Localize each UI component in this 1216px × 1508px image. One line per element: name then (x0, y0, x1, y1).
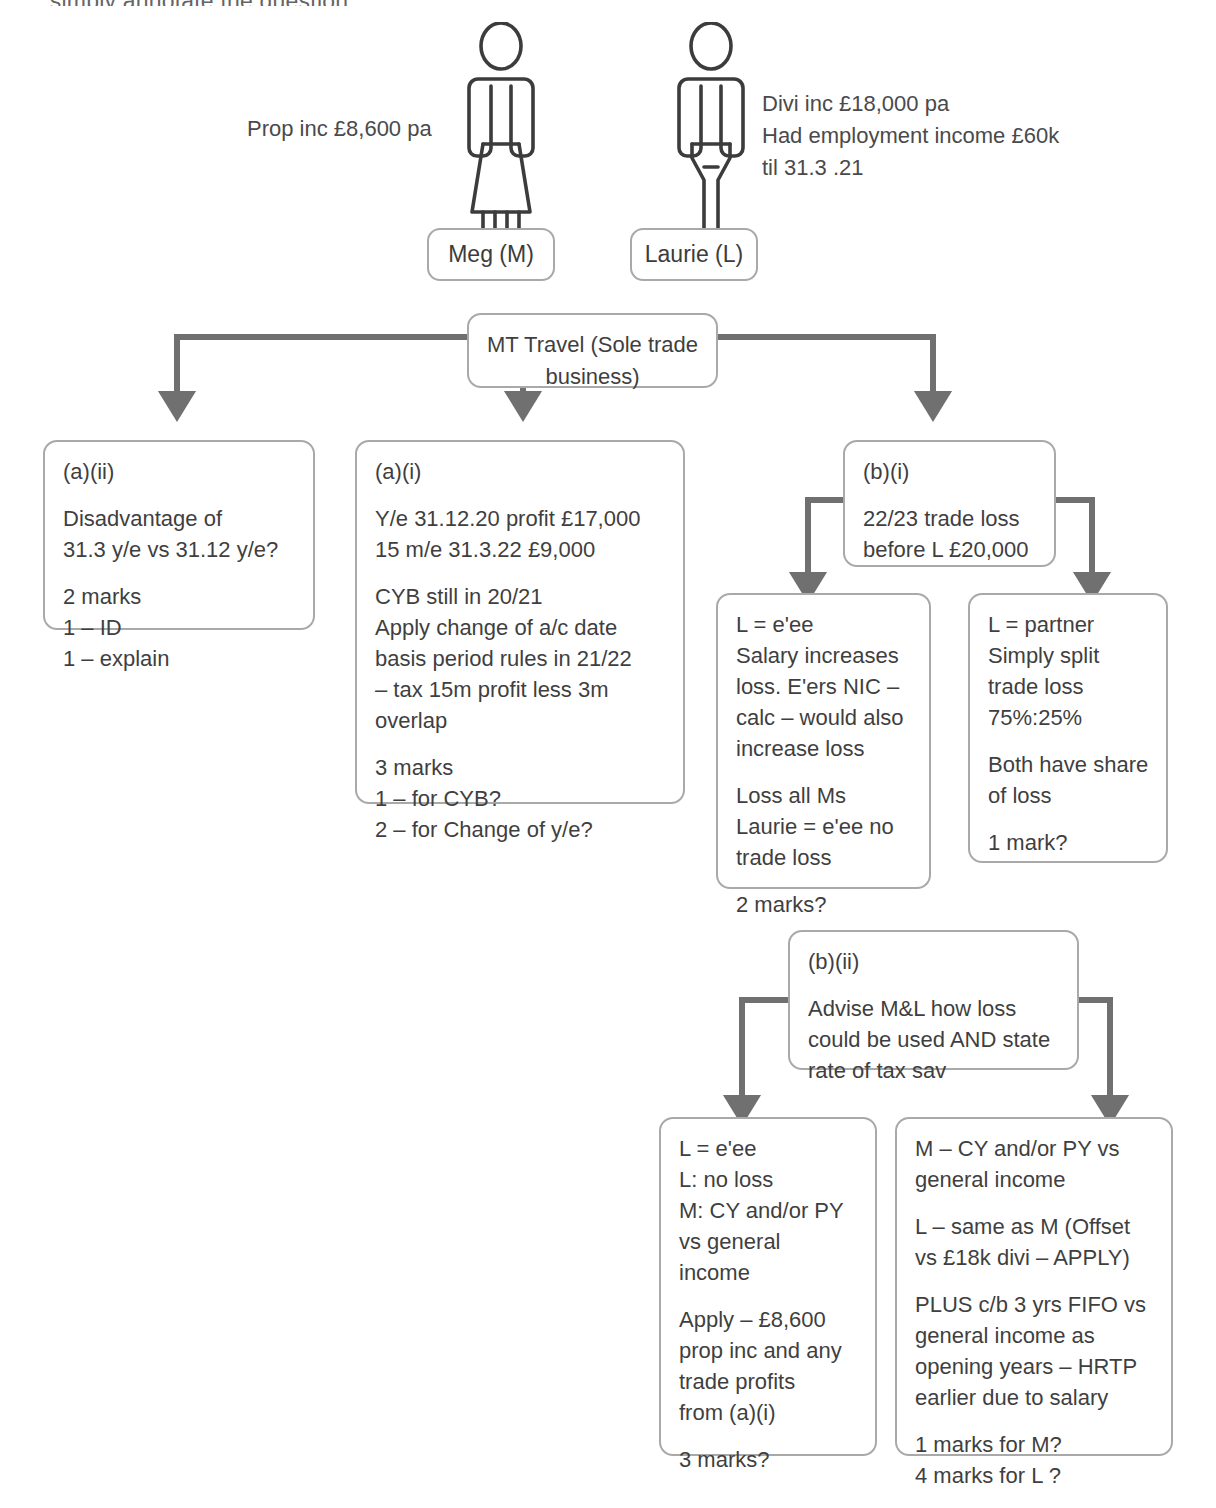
node-ref-label: (a)(ii) (63, 456, 297, 487)
node-ref: (a)(ii) (63, 456, 297, 487)
node-line: of loss (988, 780, 1150, 811)
node-line: 1 – for CYB? (375, 783, 667, 814)
node-line: – tax 15m profit less 3m (375, 674, 667, 705)
node-ref-label: (b)(i) (863, 456, 1038, 487)
node-b-ii-employee: L = e'ee L: no loss M: CY and/or PY vs g… (659, 1117, 877, 1456)
node-line: Loss all Ms (736, 780, 913, 811)
mt-travel-title: MT Travel (487, 332, 584, 357)
node-line: 22/23 trade loss (863, 503, 1038, 534)
node-para: L = e'ee L: no loss M: CY and/or PY vs g… (679, 1133, 859, 1288)
cut-off-header-text: ...simply annotate the question. (30, 0, 650, 6)
node-line: 3 marks? (679, 1444, 859, 1475)
node-ref-label: (b)(ii) (808, 946, 1061, 977)
node-line: general income (915, 1164, 1155, 1195)
node-line: income (679, 1257, 859, 1288)
node-line: loss. E'ers NIC – (736, 671, 913, 702)
node-line: 1 – explain (63, 643, 297, 674)
node-para: 2 marks? (736, 889, 913, 920)
node-para: 3 marks? (679, 1444, 859, 1475)
node-line: calc – would also (736, 702, 913, 733)
node-para: Disadvantage of 31.3 y/e vs 31.12 y/e? (63, 503, 297, 565)
node-para: 2 marks 1 – ID 1 – explain (63, 581, 297, 674)
node-line: 2 marks (63, 581, 297, 612)
node-b-i: (b)(i) 22/23 trade loss before L £20,000 (843, 440, 1056, 567)
node-line: increase loss (736, 733, 913, 764)
node-line: Advise M&L how loss (808, 993, 1061, 1024)
node-b-ii-partner: M – CY and/or PY vs general income L – s… (895, 1117, 1173, 1456)
node-b-i-employee: L = e'ee Salary increases loss. E'ers NI… (716, 593, 931, 889)
node-line: 75%:25% (988, 702, 1150, 733)
node-line: opening years – HRTP (915, 1351, 1155, 1382)
node-line: 1 mark? (988, 827, 1150, 858)
node-line: Both have share (988, 749, 1150, 780)
node-a-ii: (a)(ii) Disadvantage of 31.3 y/e vs 31.1… (43, 440, 315, 630)
node-ref: (a)(i) (375, 456, 667, 487)
annotation-meg: Prop inc £8,600 pa (247, 113, 432, 145)
node-line: rate of tax sav (808, 1055, 1061, 1086)
node-line: 1 – ID (63, 612, 297, 643)
node-para: 1 mark? (988, 827, 1150, 858)
node-line: PLUS c/b 3 yrs FIFO vs (915, 1289, 1155, 1320)
node-b-i-partner: L = partner Simply split trade loss 75%:… (968, 593, 1168, 863)
node-para: Y/e 31.12.20 profit £17,000 15 m/e 31.3.… (375, 503, 667, 565)
node-line: general income as (915, 1320, 1155, 1351)
node-para: 3 marks 1 – for CYB? 2 – for Change of y… (375, 752, 667, 845)
node-line: overlap (375, 705, 667, 736)
node-line: vs general (679, 1226, 859, 1257)
node-line: Apply – £8,600 (679, 1304, 859, 1335)
node-line: could be used AND state (808, 1024, 1061, 1055)
annotation-line: Had employment income £60k (762, 120, 1059, 152)
node-para: 22/23 trade loss before L £20,000 (863, 503, 1038, 565)
annotation-line: Divi inc £18,000 pa (762, 88, 1059, 120)
person-nameplate-laurie: Laurie (L) (630, 228, 758, 281)
node-line: 1 marks for M? (915, 1429, 1155, 1460)
node-line: M: CY and/or PY (679, 1195, 859, 1226)
node-line: trade loss (736, 842, 913, 873)
node-mt-travel: MT Travel (Sole trade business) (467, 313, 718, 388)
annotation-line: Prop inc £8,600 pa (247, 113, 432, 145)
node-line: Disadvantage of (63, 503, 297, 534)
node-para: L = partner Simply split trade loss 75%:… (988, 609, 1150, 733)
node-line: trade loss (988, 671, 1150, 702)
node-para: M – CY and/or PY vs general income (915, 1133, 1155, 1195)
diagram-canvas: ...simply annotate the question. (0, 0, 1216, 1508)
node-line: prop inc and any (679, 1335, 859, 1366)
node-para: 1 marks for M? 4 marks for L ? (915, 1429, 1155, 1491)
node-line: basis period rules in 21/22 (375, 643, 667, 674)
female-person-icon (448, 22, 554, 242)
node-line: 31.3 y/e vs 31.12 y/e? (63, 534, 297, 565)
node-line: CYB still in 20/21 (375, 581, 667, 612)
male-person-icon (658, 22, 764, 242)
node-line: Laurie = e'ee no (736, 811, 913, 842)
person-nameplate-meg: Meg (M) (427, 228, 555, 281)
node-line: from (a)(i) (679, 1397, 859, 1428)
node-ref-label: (a)(i) (375, 456, 667, 487)
node-line: 2 – for Change of y/e? (375, 814, 667, 845)
annotation-laurie: Divi inc £18,000 pa Had employment incom… (762, 88, 1059, 184)
node-line: Simply split (988, 640, 1150, 671)
person-name-label: Meg (M) (448, 241, 534, 268)
node-para: Advise M&L how loss could be used AND st… (808, 993, 1061, 1086)
node-a-i: (a)(i) Y/e 31.12.20 profit £17,000 15 m/… (355, 440, 685, 804)
node-para: L – same as M (Offset vs £18k divi – APP… (915, 1211, 1155, 1273)
node-para: Apply – £8,600 prop inc and any trade pr… (679, 1304, 859, 1428)
node-line: Apply change of a/c date (375, 612, 667, 643)
node-para: Loss all Ms Laurie = e'ee no trade loss (736, 780, 913, 873)
node-ref: (b)(ii) (808, 946, 1061, 977)
node-line: L – same as M (Offset (915, 1211, 1155, 1242)
node-line: trade profits (679, 1366, 859, 1397)
node-line: M – CY and/or PY vs (915, 1133, 1155, 1164)
node-line: 2 marks? (736, 889, 913, 920)
node-b-ii: (b)(ii) Advise M&L how loss could be use… (788, 930, 1079, 1070)
node-ref: (b)(i) (863, 456, 1038, 487)
node-line: 3 marks (375, 752, 667, 783)
node-line: L = e'ee (679, 1133, 859, 1164)
node-line: 15 m/e 31.3.22 £9,000 (375, 534, 667, 565)
node-line: 4 marks for L ? (915, 1460, 1155, 1491)
person-name-label: Laurie (L) (645, 241, 743, 268)
node-para: L = e'ee Salary increases loss. E'ers NI… (736, 609, 913, 764)
node-line: Y/e 31.12.20 profit £17,000 (375, 503, 667, 534)
annotation-line: til 31.3 .21 (762, 152, 1059, 184)
node-para: PLUS c/b 3 yrs FIFO vs general income as… (915, 1289, 1155, 1413)
node-para: Both have share of loss (988, 749, 1150, 811)
